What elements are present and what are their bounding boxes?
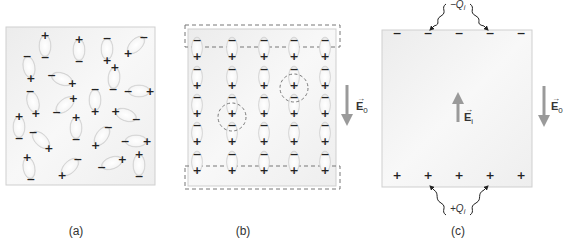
negative-charge: − <box>289 119 298 132</box>
aligned-dipole: −+ <box>259 34 270 63</box>
positive-charge: + <box>118 153 127 166</box>
negative-charge: − <box>40 51 49 64</box>
negative-charge: − <box>52 106 61 119</box>
negative-charge: − <box>134 170 143 183</box>
dielectric-polarization-diagram: +−−++−+−+−−++−−+−+−++−+−+−−++−+−−++−+−−+… <box>0 0 566 239</box>
positive-charge: + <box>134 148 143 161</box>
negative-surface-charge: − <box>392 27 401 40</box>
negative-charge: − <box>289 148 298 161</box>
wavy-arrow-bottom-left <box>430 186 446 215</box>
field-subscript-e0-c: 0 <box>558 106 563 115</box>
negative-charge: − <box>108 83 117 96</box>
positive-charge: + <box>71 111 80 124</box>
negative-charge: − <box>139 31 148 44</box>
aligned-dipole: −+ <box>289 148 300 177</box>
positive-charge: + <box>289 135 298 148</box>
positive-charge: + <box>124 47 133 60</box>
aligned-dipole: −+ <box>192 34 203 63</box>
negative-charge: − <box>320 148 329 161</box>
dipole-molecule: +− <box>89 83 101 118</box>
negative-charge: − <box>192 148 201 161</box>
aligned-dipole: −+ <box>192 148 203 177</box>
applied-field-arrow-c: E0 → <box>544 86 563 121</box>
positive-charge: + <box>289 50 298 63</box>
aligned-dipole: −+ <box>289 34 300 63</box>
dipole-molecule: +− <box>39 29 51 64</box>
svg-text:+Qi: +Qi <box>450 203 466 215</box>
positive-charge: + <box>91 139 100 152</box>
negative-charge: − <box>97 161 106 174</box>
positive-charge: + <box>110 61 119 74</box>
positive-charge: + <box>58 169 67 182</box>
positive-surface-charge: + <box>454 169 463 182</box>
negative-charge: − <box>102 32 111 45</box>
positive-surface-charge: + <box>485 169 494 182</box>
aligned-dipole: −+ <box>320 34 331 63</box>
negative-charge: − <box>74 55 83 68</box>
positive-charge: + <box>192 164 201 177</box>
aligned-dipole: −+ <box>227 119 238 148</box>
positive-charge: + <box>90 105 99 118</box>
panel-c: −+−+−+−+−+ −Qi +Qi Ei → E0 → <box>382 0 563 238</box>
panel-b: −+−+−+−+−+−+−+−+−+−+−+−+−+−+−+−+−+−+−+−+… <box>185 25 368 238</box>
positive-charge: + <box>192 135 201 148</box>
negative-charge: − <box>320 91 329 104</box>
applied-field-arrow-b: E0 → <box>347 85 368 120</box>
positive-surface-charge: + <box>423 169 432 182</box>
positive-charge: + <box>44 142 53 155</box>
positive-surface-charge: + <box>392 169 401 182</box>
dipole-molecule: −+ <box>120 135 151 148</box>
aligned-dipole: −+ <box>227 34 238 63</box>
negative-charge: − <box>259 63 268 76</box>
negative-charge: − <box>29 126 38 139</box>
aligned-dipole: −+ <box>259 63 270 92</box>
dipole-molecule: +− <box>70 111 82 146</box>
panel-a-caption: (a) <box>69 224 84 238</box>
aligned-dipole: −+ <box>227 63 238 92</box>
positive-charge: + <box>227 164 236 177</box>
negative-charge: − <box>73 153 82 166</box>
svg-text:−Qi: −Qi <box>450 0 466 11</box>
negative-charge: − <box>71 133 80 146</box>
aligned-dipole: −+ <box>289 63 300 92</box>
positive-charge: + <box>145 85 154 98</box>
field-subscript-ei: i <box>471 117 473 126</box>
negative-charge: − <box>227 91 236 104</box>
negative-charge: − <box>192 91 201 104</box>
positive-charge: + <box>320 164 329 177</box>
positive-charge: + <box>31 107 40 120</box>
aligned-dipole: −+ <box>192 119 203 148</box>
negative-charge: − <box>26 85 35 98</box>
aligned-dipole: −+ <box>320 63 331 92</box>
dipole-molecule: −+ <box>73 33 85 68</box>
positive-charge: + <box>69 92 78 105</box>
aligned-dipole: −+ <box>192 63 203 92</box>
svg-text:→: → <box>552 94 560 103</box>
aligned-dipole: −+ <box>227 91 238 120</box>
positive-charge: + <box>259 50 268 63</box>
positive-charge: + <box>14 110 23 123</box>
positive-charge: + <box>40 29 49 42</box>
negative-surface-charge: − <box>516 27 525 40</box>
positive-charge: + <box>227 135 236 148</box>
aligned-dipole: −+ <box>320 91 331 120</box>
panel-a: +−−++−+−+−−++−−+−+−++−+−+−−++−+−−++−+−−+… <box>6 27 155 238</box>
positive-charge: + <box>22 151 31 164</box>
negative-charge: − <box>227 34 236 47</box>
positive-charge: + <box>26 72 35 85</box>
negative-charge: − <box>192 34 201 47</box>
wavy-arrow-bottom-right <box>470 186 488 215</box>
negative-charge: − <box>320 119 329 132</box>
positive-charge: + <box>259 164 268 177</box>
positive-charge: + <box>289 164 298 177</box>
negative-charge: − <box>227 148 236 161</box>
positive-charge: + <box>259 135 268 148</box>
svg-text:→: → <box>357 94 365 103</box>
dipole-molecule: +− <box>133 148 145 183</box>
aligned-dipole: −+ <box>289 91 300 120</box>
negative-charge: − <box>320 34 329 47</box>
positive-charge: + <box>192 50 201 63</box>
top-charge-subscript: i <box>464 4 466 11</box>
negative-charge: − <box>289 34 298 47</box>
negative-charge: − <box>320 63 329 76</box>
